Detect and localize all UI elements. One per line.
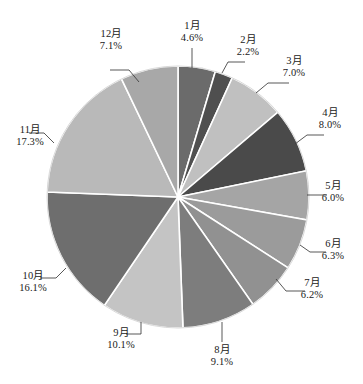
- pie-label-5: 5月 6.0%: [305, 180, 361, 204]
- pie-label-value-11: 17.3%: [1, 136, 59, 148]
- pie-label-11: 11月 17.3%: [1, 124, 59, 148]
- pie-label-12: 12月 7.1%: [82, 28, 140, 52]
- pie-label-value-8: 9.1%: [194, 356, 250, 368]
- pie-label-name-7: 7月: [284, 277, 340, 289]
- pie-label-name-12: 12月: [82, 28, 140, 40]
- pie-label-name-8: 8月: [194, 344, 250, 356]
- pie-label-value-1: 4.6%: [164, 32, 220, 44]
- pie-chart: 1月 4.6% 2月 2.2% 3月 7.0% 4月 8.0% 5月 6.0% …: [0, 0, 363, 384]
- pie-label-9: 9月 10.1%: [92, 327, 150, 351]
- pie-label-value-7: 6.2%: [284, 289, 340, 301]
- pie-label-name-4: 4月: [302, 107, 358, 119]
- pie-label-1: 1月 4.6%: [164, 20, 220, 44]
- pie-label-name-6: 6月: [305, 238, 361, 250]
- leader-line-2: [222, 62, 245, 73]
- pie-label-name-1: 1月: [164, 20, 220, 32]
- pie-label-value-12: 7.1%: [82, 40, 140, 52]
- leader-line-3: [256, 83, 289, 93]
- pie-label-10: 10月 16.1%: [4, 270, 62, 294]
- pie-label-2: 2月 2.2%: [220, 34, 276, 58]
- pie-label-value-4: 8.0%: [302, 119, 358, 131]
- pie-label-value-6: 6.3%: [305, 250, 361, 262]
- pie-label-8: 8月 9.1%: [194, 344, 250, 368]
- pie-label-name-2: 2月: [220, 34, 276, 46]
- pie-label-name-11: 11月: [1, 124, 59, 136]
- pie-label-name-10: 10月: [4, 270, 62, 282]
- leader-line-4: [295, 135, 324, 144]
- pie-label-name-3: 3月: [266, 55, 322, 67]
- pie-label-value-10: 16.1%: [4, 282, 62, 294]
- pie-label-4: 4月 8.0%: [302, 107, 358, 131]
- pie-label-name-5: 5月: [305, 180, 361, 192]
- pie-label-3: 3月 7.0%: [266, 55, 322, 79]
- pie-label-7: 7月 6.2%: [284, 277, 340, 301]
- pie-label-value-5: 6.0%: [305, 192, 361, 204]
- pie-label-name-9: 9月: [92, 327, 150, 339]
- pie-label-6: 6月 6.3%: [305, 238, 361, 262]
- pie-label-value-9: 10.1%: [92, 339, 150, 351]
- pie-slices: [47, 66, 309, 328]
- pie-label-value-3: 7.0%: [266, 67, 322, 79]
